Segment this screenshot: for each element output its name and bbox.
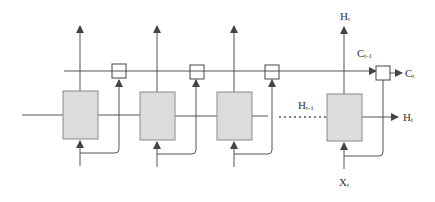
gate-box-2: [190, 65, 204, 79]
lstm-cell-1: [63, 91, 98, 139]
lstm-diagram: Ht Ct-1 Ct Ht-1 Ht Xt: [0, 0, 435, 202]
label-input: Xt: [339, 176, 349, 189]
label-hidden-out: Ht: [403, 111, 413, 124]
lstm-cell-2: [140, 92, 175, 140]
label-cell-state-prev: Ct-1: [357, 47, 373, 60]
label-top-output: Ht: [340, 10, 350, 23]
gate-box-t: [376, 66, 390, 80]
lstm-cell-3: [217, 92, 252, 140]
label-cell-state-out: Ct: [405, 67, 414, 80]
lstm-cell-t: [327, 94, 362, 141]
label-hidden-prev: Ht-1: [298, 99, 314, 112]
gate-box-3: [265, 65, 279, 79]
